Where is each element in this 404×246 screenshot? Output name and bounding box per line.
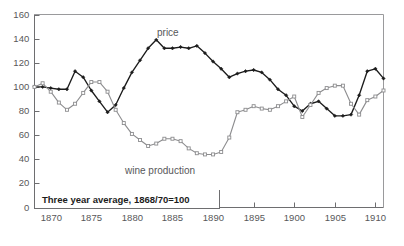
data-point-marker bbox=[74, 102, 77, 105]
data-point-marker bbox=[187, 47, 190, 50]
data-point-marker bbox=[195, 152, 198, 155]
data-point-marker bbox=[268, 108, 271, 111]
x-axis-tick-label: 1905 bbox=[316, 212, 356, 223]
data-point-marker bbox=[325, 87, 328, 90]
data-point-marker bbox=[57, 101, 60, 104]
data-point-marker bbox=[49, 86, 52, 89]
series-line-wine-production bbox=[35, 82, 384, 154]
data-point-marker bbox=[244, 69, 247, 72]
data-point-marker bbox=[41, 85, 44, 88]
data-point-marker bbox=[171, 47, 174, 50]
data-point-marker bbox=[252, 68, 255, 71]
data-point-marker bbox=[187, 147, 190, 150]
data-point-marker bbox=[114, 108, 117, 111]
data-point-marker bbox=[276, 105, 279, 108]
data-point-marker bbox=[317, 91, 320, 94]
x-axis-tick-label: 1880 bbox=[113, 212, 153, 223]
y-axis-tick-label: 20 bbox=[4, 177, 30, 188]
y-axis-tick-label: 100 bbox=[4, 81, 30, 92]
series-label-wine-production: wine production bbox=[125, 165, 195, 176]
data-point-marker bbox=[341, 84, 344, 87]
data-point-marker bbox=[350, 102, 353, 105]
data-point-marker bbox=[147, 144, 150, 147]
x-axis-tick-label: 1895 bbox=[235, 212, 275, 223]
data-point-marker bbox=[228, 136, 231, 139]
x-axis-tick-label: 1890 bbox=[194, 212, 234, 223]
series-line-price bbox=[35, 40, 384, 116]
x-axis-tick-label: 1910 bbox=[356, 212, 396, 223]
data-point-marker bbox=[41, 82, 44, 85]
data-point-marker bbox=[122, 122, 125, 125]
data-point-marker bbox=[90, 81, 93, 84]
y-axis-tick-label: 0 bbox=[4, 202, 30, 213]
data-point-marker bbox=[57, 88, 60, 91]
data-point-marker bbox=[179, 45, 182, 48]
data-point-marker bbox=[366, 99, 369, 102]
x-axis-tick-label: 1870 bbox=[32, 212, 72, 223]
data-point-marker bbox=[163, 137, 166, 140]
data-point-marker bbox=[49, 90, 52, 93]
data-point-marker bbox=[236, 111, 239, 114]
data-point-marker bbox=[366, 69, 369, 72]
data-point-marker bbox=[220, 151, 223, 154]
data-point-marker bbox=[341, 114, 344, 117]
chart-plot-svg bbox=[0, 0, 404, 246]
series-label-price: price bbox=[157, 27, 179, 38]
data-point-marker bbox=[106, 90, 109, 93]
data-point-marker bbox=[301, 116, 304, 119]
y-axis-tick-label: 120 bbox=[4, 57, 30, 68]
data-point-marker bbox=[252, 105, 255, 108]
data-point-marker bbox=[309, 103, 312, 106]
y-axis-tick-label: 140 bbox=[4, 33, 30, 44]
data-point-marker bbox=[358, 113, 361, 116]
x-axis-tick-label: 1900 bbox=[275, 212, 315, 223]
y-axis-tick-label: 60 bbox=[4, 129, 30, 140]
data-point-marker bbox=[139, 138, 142, 141]
data-point-marker bbox=[285, 100, 288, 103]
data-point-marker bbox=[203, 153, 206, 156]
data-point-marker bbox=[374, 95, 377, 98]
y-axis-tick-label: 80 bbox=[4, 105, 30, 116]
y-axis-tick-label: 160 bbox=[4, 9, 30, 20]
data-point-marker bbox=[130, 132, 133, 135]
data-point-marker bbox=[179, 140, 182, 143]
data-point-marker bbox=[333, 84, 336, 87]
data-point-marker bbox=[382, 89, 385, 92]
data-point-marker bbox=[155, 142, 158, 145]
data-point-marker bbox=[212, 153, 215, 156]
data-point-marker bbox=[244, 108, 247, 111]
caption-text: Three year average, 1868/70=100 bbox=[42, 194, 190, 205]
data-point-marker bbox=[33, 85, 36, 88]
data-point-marker bbox=[293, 95, 296, 98]
data-point-marker bbox=[260, 107, 263, 110]
y-axis-tick-label: 40 bbox=[4, 153, 30, 164]
data-point-marker bbox=[82, 91, 85, 94]
chart-figure: Three year average, 1868/70=100 02040608… bbox=[0, 0, 404, 246]
data-point-marker bbox=[171, 137, 174, 140]
x-axis-tick-label: 1875 bbox=[72, 212, 112, 223]
data-point-marker bbox=[98, 81, 101, 84]
x-axis-tick-label: 1885 bbox=[153, 212, 193, 223]
data-point-marker bbox=[65, 108, 68, 111]
